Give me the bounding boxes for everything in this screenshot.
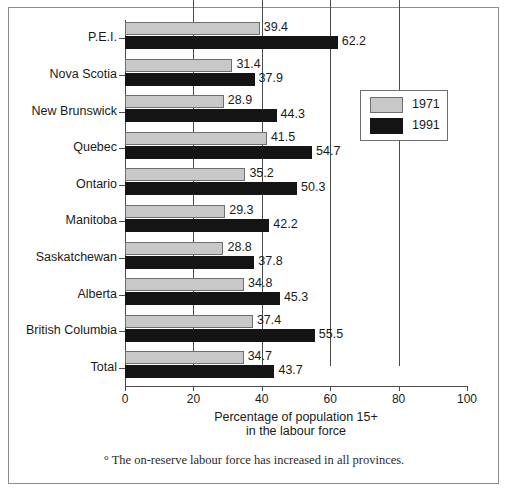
category-tick-mark (119, 185, 125, 186)
x-tick-mark (330, 386, 331, 391)
bar-1971 (125, 22, 260, 35)
bar-group: 31.437.9 (125, 57, 467, 94)
category-label: New Brunswick (5, 104, 117, 118)
chart-figure: 020406080100 39.462.231.437.928.944.341.… (0, 0, 509, 495)
bar-value-label: 45.3 (284, 290, 308, 304)
bar-group: 34.845.3 (125, 276, 467, 313)
bar-1971 (125, 278, 244, 291)
category-tick-mark (119, 368, 125, 369)
x-tick-mark (467, 386, 468, 391)
bar-1991 (125, 146, 312, 159)
category-label: P.E.I. (5, 30, 117, 44)
bar-group: 35.250.3 (125, 166, 467, 203)
bar-value-label: 34.8 (248, 276, 272, 290)
category-tick-mark (119, 331, 125, 332)
x-tick-mark (125, 386, 126, 391)
bar-value-label: 54.7 (316, 144, 340, 158)
category-label: Manitoba (5, 213, 117, 227)
bar-1971 (125, 242, 223, 255)
footnote: ° The on-reserve labour force has increa… (28, 453, 480, 468)
bar-value-label: 37.8 (258, 254, 282, 268)
x-tick-label: 0 (105, 392, 145, 406)
black-swatch-icon (370, 118, 403, 134)
bar-1991 (125, 219, 269, 232)
bar-group: 37.455.5 (125, 313, 467, 350)
bar-value-label: 28.8 (227, 240, 251, 254)
bar-1991 (125, 292, 280, 305)
bar-value-label: 55.5 (319, 327, 343, 341)
bar-1991 (125, 182, 297, 195)
bar-group: 28.837.8 (125, 240, 467, 277)
bar-group: 39.462.2 (125, 20, 467, 57)
bar-1991 (125, 36, 338, 49)
legend-label: 1991 (412, 118, 440, 132)
category-label: Nova Scotia (5, 67, 117, 81)
bar-value-label: 29.3 (229, 203, 253, 217)
bar-value-label: 50.3 (301, 180, 325, 194)
x-tick-label: 100 (447, 392, 487, 406)
category-label: Ontario (5, 177, 117, 191)
bar-1971 (125, 351, 244, 364)
bar-group: 34.743.7 (125, 349, 467, 386)
legend-label: 1971 (412, 97, 440, 111)
category-label: Total (5, 360, 117, 374)
bar-1991 (125, 109, 277, 122)
x-axis-title-line2: in the labour force (125, 424, 467, 438)
x-axis-line (125, 386, 468, 387)
category-tick-mark (119, 221, 125, 222)
bar-1971 (125, 132, 267, 145)
gray-swatch-icon (370, 97, 403, 113)
category-label: British Columbia (5, 323, 117, 337)
plot-area: 39.462.231.437.928.944.341.554.735.250.3… (125, 20, 467, 386)
bar-value-label: 37.4 (257, 313, 281, 327)
category-tick-mark (119, 148, 125, 149)
x-tick-label: 60 (310, 392, 350, 406)
bar-value-label: 44.3 (281, 107, 305, 121)
bar-value-label: 31.4 (236, 57, 260, 71)
category-label: Alberta (5, 287, 117, 301)
bar-value-label: 37.9 (259, 71, 283, 85)
x-tick-mark (262, 386, 263, 391)
category-tick-mark (119, 258, 125, 259)
category-tick-mark (119, 295, 125, 296)
x-axis-title-line1: Percentage of population 15+ (125, 410, 467, 424)
bar-1971 (125, 95, 224, 108)
bar-value-label: 35.2 (249, 166, 273, 180)
bar-1971 (125, 315, 253, 328)
bar-1971 (125, 205, 225, 218)
bar-group: 29.342.2 (125, 203, 467, 240)
category-label: Saskatchewan (5, 250, 117, 264)
bar-value-label: 43.7 (278, 363, 302, 377)
x-tick-label: 40 (242, 392, 282, 406)
category-tick-mark (119, 112, 125, 113)
x-tick-label: 80 (379, 392, 419, 406)
bar-1971 (125, 59, 232, 72)
x-axis-title: Percentage of population 15+ in the labo… (125, 410, 467, 438)
bar-1971 (125, 168, 245, 181)
bar-value-label: 39.4 (264, 20, 288, 34)
bar-value-label: 34.7 (248, 349, 272, 363)
x-tick-mark (193, 386, 194, 391)
bar-1991 (125, 365, 274, 378)
bar-1991 (125, 73, 255, 86)
category-tick-mark (119, 75, 125, 76)
legend: 1971 1991 (360, 90, 448, 141)
x-tick-label: 20 (173, 392, 213, 406)
category-tick-mark (119, 38, 125, 39)
x-tick-mark (399, 386, 400, 391)
bar-1991 (125, 329, 315, 342)
bar-value-label: 62.2 (342, 34, 366, 48)
bar-value-label: 42.2 (273, 217, 297, 231)
bar-value-label: 41.5 (271, 130, 295, 144)
bar-value-label: 28.9 (228, 93, 252, 107)
bar-1991 (125, 256, 254, 269)
category-label: Quebec (5, 140, 117, 154)
